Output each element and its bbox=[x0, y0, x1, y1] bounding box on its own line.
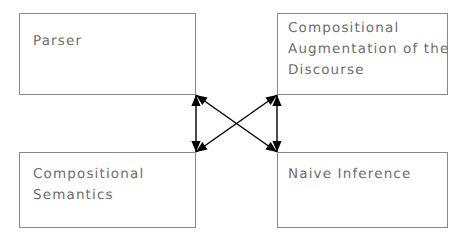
arrowhead-left-vertical-end bbox=[191, 141, 200, 152]
node-label-compositional-semantics: Compositional Semantics bbox=[33, 164, 144, 206]
diagram-canvas: Parser Compositional Augmentation of the… bbox=[0, 0, 473, 242]
connector-line-diagonal-parser-to-naive-inference bbox=[196, 95, 277, 152]
arrowhead-right-vertical-start bbox=[272, 95, 281, 106]
node-label-compositional-augmentation: Compositional Augmentation of the Discou… bbox=[288, 18, 449, 81]
connector-line-diagonal-semantics-to-augmentation bbox=[196, 95, 277, 152]
arrowhead-right-vertical-end bbox=[272, 141, 281, 152]
arrowhead-left-vertical-start bbox=[191, 95, 200, 106]
node-box-parser[interactable] bbox=[19, 13, 196, 95]
arrowhead-diagonal-parser-to-naive-inference-end bbox=[265, 142, 277, 152]
arrowhead-diagonal-parser-to-naive-inference-start bbox=[196, 95, 208, 105]
arrowhead-diagonal-semantics-to-augmentation-start bbox=[196, 142, 208, 152]
node-label-naive-inference: Naive Inference bbox=[288, 164, 411, 185]
arrowhead-diagonal-semantics-to-augmentation-end bbox=[265, 95, 277, 105]
node-label-parser: Parser bbox=[33, 31, 82, 52]
